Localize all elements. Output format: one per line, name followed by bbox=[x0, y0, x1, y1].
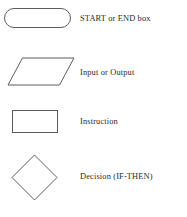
rectangle-shape bbox=[12, 110, 58, 133]
flowchart-symbol-legend: START or END box Input or Output Instruc… bbox=[0, 0, 187, 217]
legend-label-decision: Decision (IF-THEN) bbox=[80, 172, 187, 182]
rounded-terminator-shape bbox=[4, 8, 71, 28]
parallelogram-shape bbox=[7, 57, 75, 86]
legend-label-input-output: Input or Output bbox=[80, 68, 187, 78]
diamond-shape bbox=[11, 154, 58, 201]
legend-label-terminator: START or END box bbox=[80, 14, 187, 24]
legend-label-instruction: Instruction bbox=[80, 117, 187, 127]
